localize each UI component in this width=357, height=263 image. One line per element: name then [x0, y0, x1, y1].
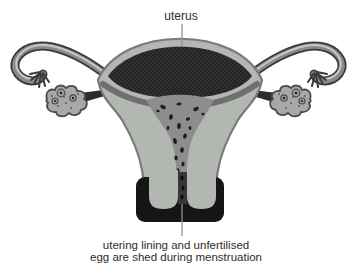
vaginal-wall-left — [149, 170, 178, 209]
cervical-canal — [178, 172, 187, 204]
uterus-menstruation-diagram: uterus utering lining and unfertilised e… — [0, 0, 357, 263]
menstruation-label-line2: egg are shed during menstruation — [90, 251, 262, 263]
diagram-canvas: uterus utering lining and unfertilised e… — [0, 0, 357, 263]
menstruation-label-line1: utering lining and unfertilised — [103, 239, 249, 251]
uterus-label: uterus — [164, 9, 197, 23]
vaginal-wall-right — [187, 170, 216, 209]
